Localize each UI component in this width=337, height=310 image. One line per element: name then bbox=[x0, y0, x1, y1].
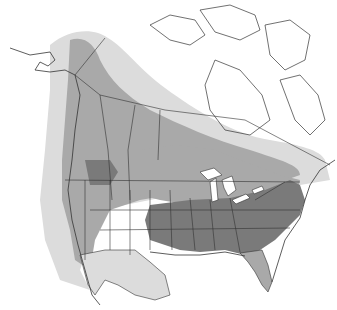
mexico bbox=[80, 250, 170, 300]
range-map bbox=[0, 0, 337, 310]
north-america-map bbox=[0, 0, 337, 310]
